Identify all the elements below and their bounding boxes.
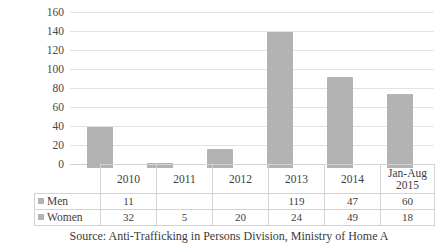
column-header-2014: 2014 <box>325 165 381 194</box>
y-tick-label: 60 <box>53 102 65 114</box>
category-label: 2011 <box>157 173 212 185</box>
bar-slot-2013 <box>250 0 310 168</box>
bar-2010 <box>87 127 113 168</box>
bar-slot-jan-aug-2015 <box>370 0 430 168</box>
y-tick-label: 20 <box>53 140 65 152</box>
cell-women-2014: 49 <box>325 210 381 226</box>
bars <box>70 0 434 168</box>
column-header-2010: 2010 <box>101 165 157 194</box>
bar-jan-aug-2015 <box>387 94 413 168</box>
y-tick-label: 140 <box>47 26 64 38</box>
bar-slot-2010 <box>70 0 130 168</box>
bar-2013 <box>267 32 293 168</box>
y-tick-label: 160 <box>47 7 64 19</box>
figure-caption: Source: Anti-Trafficking in Persons Divi… <box>34 230 424 243</box>
y-tick-label: 100 <box>47 64 64 76</box>
series-name: Women <box>47 211 82 223</box>
cell-men-2013: 119 <box>269 194 325 210</box>
cell-men-jan-aug-2015: 60 <box>381 194 435 210</box>
data-table: 2010 2011 2012 2013 2014 Jan-Aug 2015 <box>34 164 435 226</box>
series-legend-women: Women <box>35 210 101 226</box>
table-corner-cell <box>35 165 101 194</box>
cell-women-2011: 5 <box>157 210 213 226</box>
category-label: 2010 <box>101 173 156 185</box>
cell-women-jan-aug-2015: 18 <box>381 210 435 226</box>
category-label-line1: Jan-Aug <box>381 167 434 179</box>
cell-women-2010: 32 <box>101 210 157 226</box>
bar-slot-2012 <box>190 0 250 168</box>
category-label: 2014 <box>325 173 380 185</box>
table-row-women: Women 32 5 20 24 49 18 <box>35 210 435 226</box>
cell-men-2011 <box>157 194 213 210</box>
cell-men-2012 <box>213 194 269 210</box>
cell-men-2010: 11 <box>101 194 157 210</box>
table-row-men: Men 11 119 47 60 <box>35 194 435 210</box>
category-label: 2013 <box>269 173 324 185</box>
column-header-jan-aug-2015: Jan-Aug 2015 <box>381 165 435 194</box>
table-header-row: 2010 2011 2012 2013 2014 Jan-Aug 2015 <box>35 165 435 194</box>
cell-women-2013: 24 <box>269 210 325 226</box>
column-header-2011: 2011 <box>157 165 213 194</box>
cell-women-2012: 20 <box>213 210 269 226</box>
bar-slot-2011 <box>130 0 190 168</box>
bar-2014 <box>327 77 353 168</box>
legend-swatch-icon <box>38 198 44 204</box>
column-header-2013: 2013 <box>269 165 325 194</box>
legend-swatch-icon <box>38 214 44 220</box>
y-tick-label: 120 <box>47 45 64 57</box>
series-name: Men <box>47 195 68 207</box>
category-label-line2: 2015 <box>381 179 434 191</box>
series-legend-men: Men <box>35 194 101 210</box>
y-tick-label: 40 <box>53 121 65 133</box>
bar-slot-2014 <box>310 0 370 168</box>
y-tick-label: 80 <box>53 83 65 95</box>
y-axis: 160 140 120 100 80 60 40 20 0 <box>0 0 68 168</box>
cell-men-2014: 47 <box>325 194 381 210</box>
column-header-2012: 2012 <box>213 165 269 194</box>
plot-area: 160 140 120 100 80 60 40 20 0 <box>0 0 434 168</box>
category-label: 2012 <box>213 173 268 185</box>
